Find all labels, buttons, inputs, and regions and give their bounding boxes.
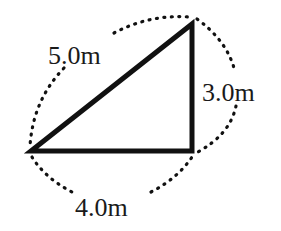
hypotenuse-dimension-arc — [114, 17, 190, 33]
horizontal-dimension-arc-left — [32, 157, 72, 192]
vertical-side-label: 3.0m — [202, 78, 255, 107]
vertical-dimension-arc-lower — [196, 106, 236, 153]
horizontal-side-label: 4.0m — [75, 193, 128, 222]
hypotenuse-dimension-arc-lower — [30, 68, 64, 146]
right-triangle-diagram: 5.0m 3.0m 4.0m — [0, 0, 281, 231]
vertical-dimension-arc-upper — [197, 19, 234, 68]
hypotenuse-label: 5.0m — [48, 41, 101, 70]
horizontal-dimension-arc-right — [151, 157, 192, 192]
